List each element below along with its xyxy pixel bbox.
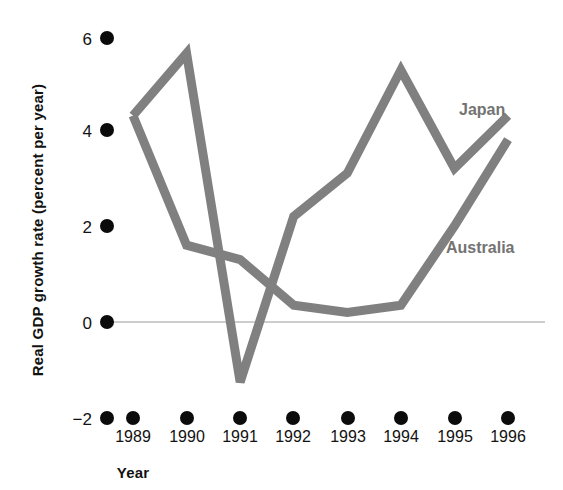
x-tick-label-1992: 1992 xyxy=(275,428,311,445)
x-axis-title: Year xyxy=(117,464,150,481)
series-line-australia xyxy=(133,116,508,313)
y-tick-label-6: 6 xyxy=(83,30,92,49)
series-line-japan xyxy=(133,53,508,382)
y-tick-label-4: 4 xyxy=(83,122,92,141)
y-tick-label-0: 0 xyxy=(83,314,92,333)
x-tick-label-1990: 1990 xyxy=(169,428,205,445)
y-tick-dot-4 xyxy=(100,123,114,137)
x-tick-label-1989: 1989 xyxy=(115,428,151,445)
y-tick-dot-2 xyxy=(100,219,114,233)
series-label-japan: Japan xyxy=(459,101,505,118)
x-axis-ticks xyxy=(126,411,515,425)
x-tick-dot-1993 xyxy=(341,411,355,425)
x-tick-label-1995: 1995 xyxy=(437,428,473,445)
y-tick-dot-minus-2 xyxy=(100,411,114,425)
x-tick-label-1993: 1993 xyxy=(330,428,366,445)
x-tick-label-1994: 1994 xyxy=(383,428,419,445)
x-axis-tick-labels: 1989 1990 1991 1992 1993 1994 1995 1996 xyxy=(115,428,526,445)
x-tick-dot-1994 xyxy=(394,411,408,425)
x-tick-label-1996: 1996 xyxy=(490,428,526,445)
gdp-growth-line-chart: 6 4 2 0 −2 1989 1990 1991 1992 1993 1994… xyxy=(0,0,563,490)
y-tick-label-2: 2 xyxy=(83,218,92,237)
x-tick-dot-1995 xyxy=(448,411,462,425)
x-tick-dot-1991 xyxy=(233,411,247,425)
y-axis-ticks xyxy=(100,31,114,425)
x-tick-dot-1990 xyxy=(180,411,194,425)
y-tick-label-minus-2: −2 xyxy=(73,410,92,429)
chart-page: 6 4 2 0 −2 1989 1990 1991 1992 1993 1994… xyxy=(0,0,563,490)
x-tick-label-1991: 1991 xyxy=(222,428,258,445)
series-label-australia: Australia xyxy=(446,239,515,256)
x-tick-dot-1992 xyxy=(286,411,300,425)
x-tick-dot-1996 xyxy=(501,411,515,425)
x-tick-dot-1989 xyxy=(126,411,140,425)
y-axis-title: Real GDP growth rate (percent per year) xyxy=(29,84,46,377)
y-tick-dot-6 xyxy=(100,31,114,45)
y-axis-tick-labels: 6 4 2 0 −2 xyxy=(73,30,92,429)
y-tick-dot-0 xyxy=(100,315,114,329)
